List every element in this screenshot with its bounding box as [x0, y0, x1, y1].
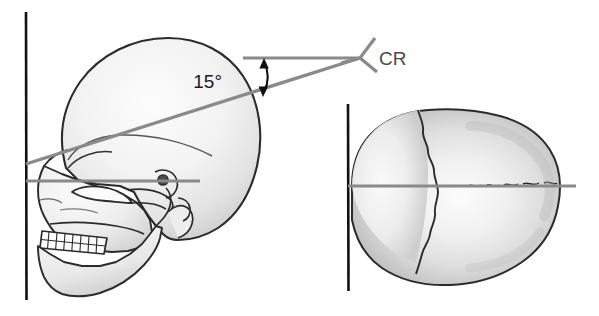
cr-arrowhead-icon — [341, 38, 377, 72]
cr-label: CR — [379, 48, 406, 69]
angle-label: 15° — [193, 71, 222, 92]
diagram-root: 15° CR — [0, 0, 599, 316]
cr-marker: CR — [341, 38, 406, 72]
skull-positioning-diagram: 15° CR — [0, 0, 599, 316]
lateral-skull-view — [26, 12, 360, 300]
receptor-line-axial — [348, 104, 349, 291]
angle-arrow-head-bottom — [259, 87, 268, 97]
receptor-line-lateral — [26, 12, 27, 300]
axial-skull-view — [348, 104, 576, 291]
